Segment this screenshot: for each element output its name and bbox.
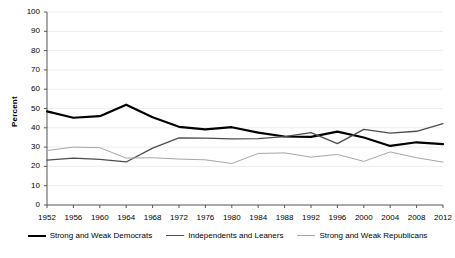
legend-label-democrats: Strong and Weak Democrats (50, 231, 153, 240)
figure-caption (58, 249, 358, 258)
axis-lines (44, 12, 443, 208)
series-line-strong-and-weak-republicans (47, 147, 443, 163)
legend-label-republicans: Strong and Weak Republicans (319, 231, 427, 240)
data-series-layer (47, 105, 443, 164)
legend-swatch-republicans-icon (297, 235, 315, 236)
legend-label-independents: Independents and Leaners (188, 231, 283, 240)
legend-swatch-independents-icon (166, 235, 184, 236)
party-identification-line-chart: Percent 1009080706050403020100 195219561… (0, 0, 455, 258)
legend-item-independents: Independents and Leaners (166, 231, 283, 240)
plot-area (0, 0, 455, 258)
series-line-strong-and-weak-democrats (47, 105, 443, 146)
legend-swatch-democrats-icon (28, 235, 46, 237)
legend-item-republicans: Strong and Weak Republicans (297, 231, 427, 240)
legend-item-democrats: Strong and Weak Democrats (28, 231, 153, 240)
chart-legend: Strong and Weak Democrats Independents a… (0, 231, 455, 240)
